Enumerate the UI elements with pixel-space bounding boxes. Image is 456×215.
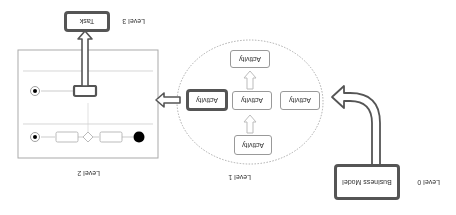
business-model-label: Business Model (342, 178, 391, 186)
task-box: Task (64, 11, 110, 32)
activity-selected: Activity (186, 89, 228, 111)
arrow-to-level2 (156, 93, 180, 107)
hierarchy-diagram: Business Model Level 0 Activity Activity… (0, 0, 456, 215)
activity-bottom: Activity (234, 135, 272, 155)
activity-label: Activity (289, 97, 311, 105)
activity-center: Activity (232, 91, 272, 110)
level3-label: Level 3 (122, 18, 145, 25)
curved-arrow-business-model (332, 86, 380, 169)
level0-label: Level 0 (417, 179, 440, 186)
level1-label: Level 1 (228, 174, 251, 181)
activity-label: Activity (239, 55, 261, 63)
activity-label: Activity (196, 96, 218, 104)
activity-label: Activity (241, 97, 263, 105)
activity-label: Activity (242, 141, 264, 149)
activity-left: Activity (280, 91, 320, 110)
task-label: Task (80, 18, 94, 26)
business-model-box: Business Model (334, 164, 400, 200)
level2-label: Level 2 (77, 170, 100, 177)
activity-top: Activity (230, 50, 270, 68)
